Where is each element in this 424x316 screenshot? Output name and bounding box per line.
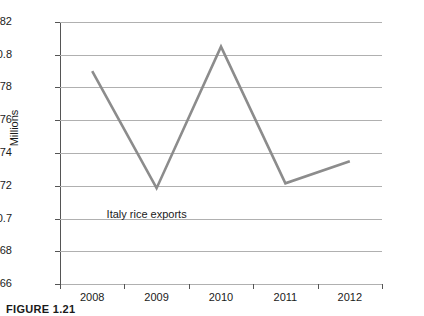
- plot-area: 0.820.80.780.760.740.720.70.680.66 20082…: [60, 22, 382, 284]
- x-axis-tick-label: 2008: [60, 292, 124, 303]
- y-axis-tick-label: 0.8: [0, 49, 12, 60]
- y-axis-tick-label: 0.7: [0, 213, 12, 224]
- x-axis-tick: [318, 284, 319, 289]
- figure-container: Millions 0.820.80.780.760.740.720.70.680…: [0, 0, 424, 316]
- y-axis-tick-label: 0.76: [0, 114, 12, 125]
- y-axis-tick-label: 0.72: [0, 180, 12, 191]
- x-axis-tick-label: 2011: [253, 292, 317, 303]
- gridline: [60, 284, 382, 285]
- x-axis-tick: [60, 284, 61, 289]
- y-axis-tick-label: 0.74: [0, 147, 12, 158]
- series-line-italy-rice-exports: [92, 47, 350, 189]
- series-line-chart: [60, 22, 382, 284]
- x-axis-tick: [253, 284, 254, 289]
- y-axis-tick-label: 0.66: [0, 278, 12, 289]
- x-axis-tick: [124, 284, 125, 289]
- x-axis-tick: [382, 284, 383, 289]
- x-axis-tick-label: 2012: [318, 292, 382, 303]
- x-axis-tick-label: 2009: [125, 292, 189, 303]
- y-axis-tick-label: 0.82: [0, 16, 12, 27]
- x-axis-tick-label: 2010: [189, 292, 253, 303]
- x-axis-tick: [189, 284, 190, 289]
- chart-annotation-label: Italy rice exports: [107, 208, 187, 220]
- y-axis-tick-label: 0.78: [0, 81, 12, 92]
- y-axis-tick-label: 0.68: [0, 245, 12, 256]
- figure-caption: FIGURE 1.21: [6, 303, 75, 315]
